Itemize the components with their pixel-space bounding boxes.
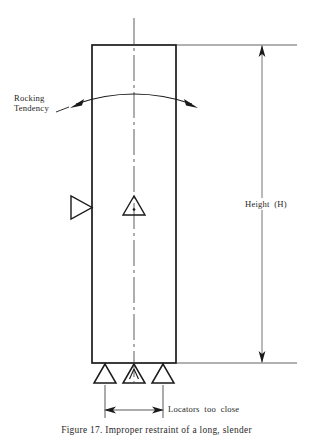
rocking-tendency-label: Rocking Tendency: [14, 93, 49, 113]
figure-drawing-canvas: [0, 0, 313, 436]
locators-too-close-label: Locators too close: [167, 404, 240, 414]
center-locator-dot: [133, 208, 136, 211]
engineering-figure: Rocking Tendency Height (H) Locators too…: [0, 0, 313, 436]
height-dimension-label: Height (H): [243, 198, 289, 210]
locator-right-triangle: [152, 364, 174, 383]
locator-left-triangle: [94, 364, 116, 383]
rocking-arrow-right: [184, 99, 198, 108]
side-locator-triangle: [71, 196, 92, 219]
rocking-arrow-left: [70, 99, 84, 108]
rocking-leader-line: [56, 107, 69, 112]
figure-caption: Figure 17. Improper restraint of a long,…: [0, 425, 313, 435]
